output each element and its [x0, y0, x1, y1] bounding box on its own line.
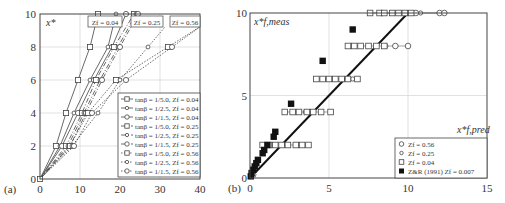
square-marker [314, 76, 320, 82]
circle-marker [399, 142, 404, 147]
legend-entry: tanβ = 1/1.5, Zf = 0.25 [135, 141, 199, 149]
panel-a: 0102030400246810(a)x*TZf = 0.04Zf = 0.25… [4, 8, 206, 196]
zr-1991-marker [271, 134, 277, 140]
square-marker [333, 76, 339, 82]
square-marker [63, 110, 68, 115]
diamond-marker [400, 151, 403, 154]
square-marker [125, 124, 129, 128]
circle-marker [125, 142, 129, 146]
square-marker [339, 76, 345, 82]
legend-entry: tanβ = 1/1.5, Zf = 0.56 [135, 168, 199, 176]
square-marker [304, 109, 310, 115]
y-tick-label: 2 [31, 140, 37, 152]
x-tick-label: 20 [115, 183, 127, 195]
circle-marker [89, 110, 94, 115]
zr-1991-marker [248, 173, 254, 179]
circle-marker [169, 44, 174, 49]
square-marker [125, 151, 129, 155]
legend-entry: tanβ = 1/5.0, Zf = 0.04 [135, 96, 199, 104]
zr-1991-marker [259, 150, 265, 156]
y-tick-label: 5 [242, 90, 248, 102]
square-marker [366, 43, 372, 49]
square-marker [299, 142, 305, 148]
legend-entry: tanβ = 1/2.5, Zf = 0.25 [135, 132, 199, 140]
diamond-marker [125, 106, 128, 109]
circle-marker [125, 115, 129, 119]
zf-annotation-text: Zf = 0.04 [92, 19, 119, 27]
diamond-marker [125, 160, 128, 163]
y-tick-label: 4 [31, 107, 37, 119]
x-tick-label: 40 [195, 183, 207, 195]
circle-marker [117, 44, 122, 49]
diamond-marker [125, 133, 128, 136]
diamond-marker [118, 78, 122, 82]
legend-entry: Zf = 0.04 [408, 159, 435, 167]
legend-entry: tanβ = 1/2.5, Zf = 0.56 [135, 159, 199, 167]
square-marker [296, 109, 302, 115]
zr-1991-marker [319, 58, 325, 64]
series-line [40, 14, 116, 179]
square-marker [75, 77, 80, 82]
square-marker [345, 76, 351, 82]
legend-entry: Z&R (1991) Zf = 0.007 [408, 168, 475, 176]
circle-marker [71, 143, 76, 148]
x-tick-label: 0 [247, 182, 253, 194]
legend-entry: Zf = 0.56 [408, 141, 435, 149]
legend-entry: tanβ = 1/1.5, Zf = 0.04 [135, 114, 199, 122]
x-tick-label: 5 [326, 182, 332, 194]
square-marker [355, 76, 361, 82]
y-tick-label: 6 [31, 74, 37, 86]
zf-annotation-text: Zf = 0.56 [172, 19, 199, 27]
circle-marker [405, 43, 411, 49]
zf-annotation-text: Zf = 0.25 [134, 19, 161, 27]
circle-marker [123, 77, 128, 82]
diamond-marker [96, 111, 100, 115]
y-tick-label: 10 [25, 8, 37, 20]
circle-marker [125, 169, 129, 173]
square-marker [310, 109, 316, 115]
legend-entry: tanβ = 1/5.0, Zf = 0.56 [135, 150, 199, 158]
square-marker [318, 109, 324, 115]
square-marker [320, 76, 326, 82]
square-marker [326, 76, 332, 82]
figure: 0102030400246810(a)x*TZf = 0.04Zf = 0.25… [0, 0, 505, 203]
panel-b: 0510150510(b)x*f,measx*f,predZf = 0.56Zf… [228, 7, 493, 195]
panel-label: (b) [228, 182, 241, 195]
zr-1991-marker [288, 101, 294, 107]
x-tick-label: 15 [482, 182, 494, 194]
square-marker [328, 109, 334, 115]
circle-marker [393, 43, 399, 49]
square-marker [279, 142, 285, 148]
diamond-marker [351, 77, 355, 81]
panel-label: (a) [4, 183, 17, 196]
circle-marker [99, 77, 104, 82]
x-axis-label: x*f,pred [456, 124, 491, 135]
square-marker [87, 44, 92, 49]
x-tick-label: 0 [37, 183, 43, 195]
y-tick-label: 8 [31, 41, 37, 53]
legend-entry: Zf = 0.25 [408, 150, 435, 158]
square-marker [351, 43, 357, 49]
x-tick-label: 10 [403, 182, 415, 194]
square-marker [290, 109, 296, 115]
square-marker [306, 142, 312, 148]
square-marker [382, 43, 388, 49]
zr-1991-marker [350, 26, 356, 32]
legend-entry: tanβ = 1/2.5, Zf = 0.04 [135, 105, 199, 113]
diamond-marker [146, 45, 150, 49]
square-marker [293, 142, 299, 148]
y-tick-label: 10 [236, 7, 248, 19]
legend-marker [399, 169, 404, 174]
legend-entry: tanβ = 1/5.0, Zf = 0.25 [135, 123, 199, 131]
y-axis-label: x*f,meas [253, 16, 289, 27]
square-marker [285, 142, 291, 148]
x-tick-label: 10 [75, 183, 87, 195]
square-marker [358, 43, 364, 49]
y-tick-label: 0 [31, 173, 37, 185]
square-marker [374, 43, 380, 49]
square-marker [399, 160, 404, 165]
square-marker [125, 97, 129, 101]
series-line [40, 14, 126, 179]
x-tick-label: 30 [155, 183, 167, 195]
series-line [40, 14, 98, 179]
